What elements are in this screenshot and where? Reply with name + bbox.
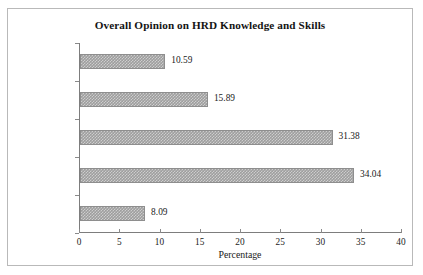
y-axis-tick	[75, 233, 79, 234]
x-axis-tick	[321, 229, 322, 233]
bar-value-label: 31.38	[339, 131, 360, 141]
x-axis-tick-label: 10	[155, 237, 164, 247]
x-axis-tick-label: 40	[396, 237, 405, 247]
bar[interactable]	[80, 130, 333, 145]
x-axis-tick	[79, 229, 80, 233]
bar-value-label: 8.09	[151, 207, 167, 217]
x-axis-title: Percentage	[79, 249, 401, 260]
x-axis-tick-label: 0	[77, 237, 82, 247]
x-axis-tick	[119, 229, 120, 233]
x-axis-tick	[401, 229, 402, 233]
x-axis-tick	[240, 229, 241, 233]
x-axis-tick-label: 15	[195, 237, 204, 247]
x-axis-tick	[160, 229, 161, 233]
bar-value-label: 15.89	[214, 93, 235, 103]
y-axis-tick	[75, 157, 79, 158]
x-axis-tick-label: 20	[235, 237, 244, 247]
bar[interactable]	[80, 206, 145, 221]
chart-frame: Overall Opinion on HRD Knowledge and Ski…	[7, 8, 413, 266]
x-axis-tick	[361, 229, 362, 233]
bar-value-label: 10.59	[171, 55, 192, 65]
bar-value-label: 34.04	[360, 169, 381, 179]
bar[interactable]	[80, 92, 208, 107]
y-axis-tick	[75, 81, 79, 82]
y-axis-tick	[75, 195, 79, 196]
x-axis-tick-label: 5	[117, 237, 122, 247]
y-axis-tick	[75, 43, 79, 44]
y-axis-tick	[75, 119, 79, 120]
x-axis-tick	[200, 229, 201, 233]
x-axis-tick-label: 25	[276, 237, 285, 247]
x-axis-tick-label: 30	[316, 237, 325, 247]
x-axis-tick-label: 35	[356, 237, 365, 247]
bar[interactable]	[80, 168, 354, 183]
plot-area: 0 5 10 15 20 25 30 35 40 Percentage 10.5…	[79, 43, 401, 233]
x-axis-tick	[280, 229, 281, 233]
chart-title: Overall Opinion on HRD Knowledge and Ski…	[8, 19, 412, 31]
bar[interactable]	[80, 54, 165, 69]
